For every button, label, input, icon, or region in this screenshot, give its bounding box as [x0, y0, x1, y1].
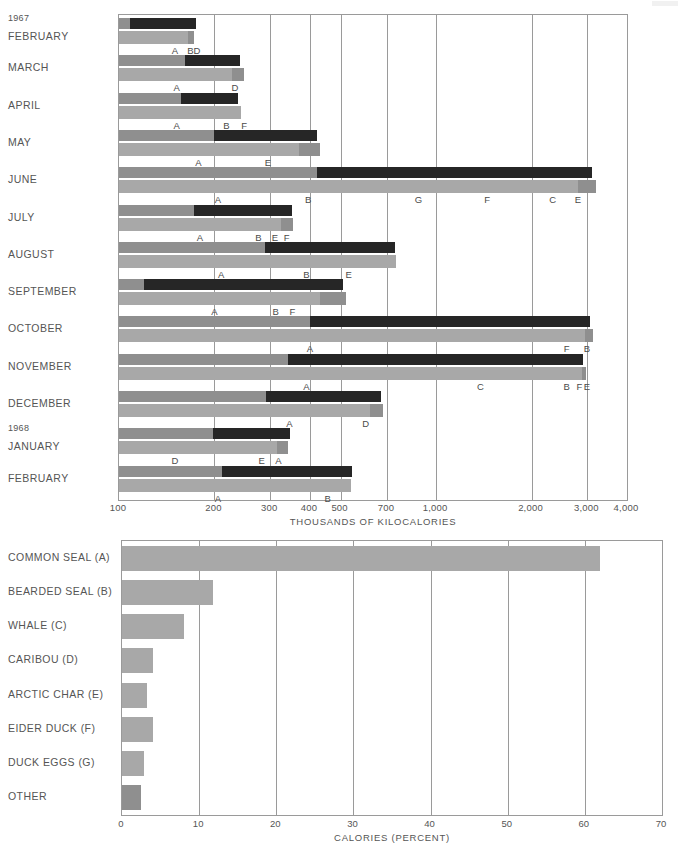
bar-dark-lead-segment	[119, 279, 144, 290]
bar-breakdown-segment	[119, 180, 578, 193]
bar-breakdown-segment	[320, 292, 346, 305]
category-label: WHALE (C)	[8, 619, 67, 631]
category-label: ARCTIC CHAR (E)	[8, 688, 103, 700]
year-label: 1968	[8, 423, 29, 433]
x-tick-label: 50	[487, 818, 527, 829]
gridline-50	[508, 541, 509, 815]
segment-letter-label: E	[568, 194, 588, 205]
bar-dark-lead-segment	[119, 428, 213, 439]
bar-breakdown-segment	[119, 367, 582, 380]
x-tick-label: 700	[363, 502, 409, 513]
segment-letter-label: F	[477, 194, 497, 205]
gridline-30	[353, 541, 354, 815]
bar-breakdown-segment	[119, 441, 277, 454]
bar-breakdown-segment	[582, 367, 587, 380]
bar-breakdown-segment	[119, 404, 370, 417]
bar-breakdown-segment	[232, 68, 244, 81]
month-label: APRIL	[8, 99, 41, 111]
x-tick-label: 200	[190, 502, 236, 513]
bar-breakdown-segment	[119, 31, 188, 44]
bar-total-energy	[214, 130, 316, 141]
category-label: OTHER	[8, 790, 47, 802]
monthly-energy-plot-area: ABDADABFAEABGFCEABEFABEABFAFBACBFEADDEAA…	[118, 14, 628, 501]
bar-breakdown-segment	[119, 143, 299, 156]
calories-bar	[122, 751, 144, 776]
calories-bar	[122, 785, 141, 810]
x-tick-label: 100	[95, 502, 141, 513]
bar-breakdown-segment	[119, 255, 396, 268]
bottom-chart-x-axis-title: CALORIES (PERCENT)	[121, 832, 663, 843]
calories-bar	[122, 546, 600, 571]
category-label: EIDER DUCK (F)	[8, 722, 95, 734]
category-label: CARIBOU (D)	[8, 653, 78, 665]
bar-total-energy	[265, 242, 395, 253]
bar-breakdown-segment	[119, 218, 281, 231]
bar-dark-lead-segment	[119, 93, 181, 104]
gridline-60	[585, 541, 586, 815]
calories-by-source-chart-panel: COMMON SEAL (A)BEARDED SEAL (B)WHALE (C)…	[0, 534, 684, 848]
bar-total-energy	[130, 18, 196, 29]
page-corner-mark	[652, 1, 678, 6]
x-tick-label: 2,000	[508, 502, 554, 513]
segment-letter-label: B	[298, 194, 318, 205]
bar-total-energy	[222, 466, 352, 477]
monthly-energy-chart-panel: ABDADABFAEABGFCEABEFABEABFAFBACBFEADDEAA…	[0, 0, 684, 530]
segment-letter-label: D	[356, 418, 376, 429]
month-label: MAY	[8, 136, 31, 148]
bar-dark-lead-segment	[119, 242, 265, 253]
bar-total-energy	[310, 316, 590, 327]
bar-total-energy	[317, 167, 592, 178]
x-tick-label: 70	[641, 818, 681, 829]
calories-bar	[122, 683, 147, 708]
bar-dark-lead-segment	[119, 55, 185, 66]
gridline-4000	[627, 15, 628, 500]
segment-letter-label: C	[543, 194, 563, 205]
month-label: NOVEMBER	[8, 360, 72, 372]
gridline-3000	[587, 15, 588, 500]
segment-letter-label: G	[408, 194, 428, 205]
bar-total-energy	[144, 279, 343, 290]
month-label: JULY	[8, 211, 35, 223]
gridline-20	[276, 541, 277, 815]
x-tick-label: 500	[317, 502, 363, 513]
x-tick-label: 1,000	[412, 502, 458, 513]
bar-total-energy	[181, 93, 238, 104]
month-label: OCTOBER	[8, 322, 63, 334]
month-label: JANUARY	[8, 440, 60, 452]
month-label: SEPTEMBER	[8, 285, 77, 297]
x-tick-label: 60	[564, 818, 604, 829]
bar-total-energy	[266, 391, 381, 402]
calories-bar	[122, 614, 184, 639]
calories-bar	[122, 580, 213, 605]
month-label: JUNE	[8, 173, 37, 185]
year-label: 1967	[8, 13, 29, 23]
bar-dark-lead-segment	[119, 130, 214, 141]
bar-breakdown-segment	[578, 180, 596, 193]
bar-breakdown-segment	[188, 31, 194, 44]
bar-dark-lead-segment	[119, 391, 266, 402]
bar-breakdown-segment	[119, 292, 320, 305]
bar-dark-lead-segment	[119, 354, 288, 365]
bar-breakdown-segment	[119, 329, 585, 342]
x-tick-label: 30	[332, 818, 372, 829]
x-tick-label: 0	[101, 818, 141, 829]
bar-total-energy	[288, 354, 583, 365]
segment-letter-label: E	[577, 381, 597, 392]
bar-breakdown-segment	[119, 106, 241, 119]
top-chart-x-axis-title: THOUSANDS OF KILOCALORIES	[118, 516, 628, 527]
bar-breakdown-segment	[281, 218, 293, 231]
bar-total-energy	[185, 55, 239, 66]
gridline-40	[431, 541, 432, 815]
x-tick-label: 20	[255, 818, 295, 829]
bar-breakdown-segment	[370, 404, 383, 417]
month-label: FEBRUARY	[8, 472, 69, 484]
bottom-chart-x-axis: 010203040506070 CALORIES (PERCENT)	[0, 818, 684, 848]
bar-breakdown-segment	[119, 68, 232, 81]
gridline-1000	[436, 15, 437, 500]
category-label: DUCK EGGS (G)	[8, 756, 95, 768]
bar-dark-lead-segment	[119, 316, 310, 327]
bar-breakdown-segment	[119, 479, 351, 492]
bar-dark-lead-segment	[119, 205, 194, 216]
segment-letter-label: C	[470, 381, 490, 392]
bar-breakdown-segment	[277, 441, 288, 454]
